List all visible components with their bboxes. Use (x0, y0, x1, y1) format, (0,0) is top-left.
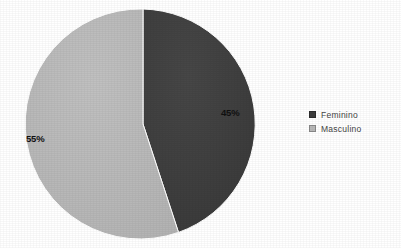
legend-item-masculino[interactable]: Masculino (309, 122, 397, 135)
pie-chart-svg (0, 0, 290, 248)
legend-item-feminino[interactable]: Feminino (309, 108, 397, 121)
chart-legend: Feminino Masculino (309, 108, 397, 136)
pie-slice-label-masculino: 55% (26, 133, 44, 144)
pie-slice-label-feminino: 45% (221, 107, 239, 118)
legend-swatch-icon-masculino (309, 125, 316, 132)
legend-label-feminino: Feminino (321, 110, 358, 120)
pie-chart-figure: 45% 55% Feminino Masculino (0, 0, 401, 248)
legend-swatch-icon-feminino (309, 111, 316, 118)
legend-label-masculino: Masculino (321, 124, 362, 134)
pie-chart-plot-area: 45% 55% (0, 0, 290, 248)
